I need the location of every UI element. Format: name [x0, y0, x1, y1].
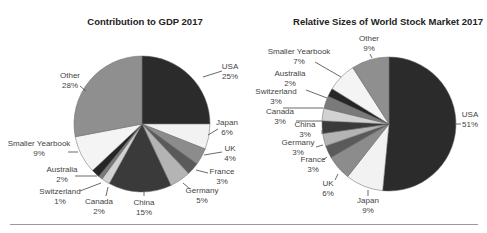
- leader-line: [106, 187, 108, 196]
- pie-slice-other: [74, 56, 142, 137]
- slice-label: UK4%: [224, 144, 236, 163]
- slice-label: Canada3%: [266, 107, 295, 126]
- slice-label: France3%: [301, 155, 326, 174]
- slice-label: Japan9%: [357, 196, 379, 215]
- leader-line: [306, 90, 327, 98]
- slice-label: Canada2%: [85, 197, 114, 216]
- leader-line: [315, 62, 341, 77]
- slice-label: Smaller Yearbook9%: [8, 139, 72, 158]
- gdp-pie-chart: USA25%Japan6%UK4%France3%Germany5%China1…: [8, 56, 239, 217]
- bottom-divider: [10, 224, 478, 225]
- leader-line: [335, 174, 338, 180]
- leader-line: [80, 183, 101, 191]
- slice-label: USA25%: [222, 62, 239, 81]
- slice-label: USA51%: [462, 110, 479, 129]
- pie-slice-usa: [142, 56, 210, 124]
- slice-label: Australia2%: [274, 69, 306, 88]
- slice-label: Other9%: [359, 34, 379, 53]
- slice-label: China3%: [295, 120, 316, 139]
- leader-line: [203, 71, 222, 77]
- slice-label: Japan6%: [216, 118, 238, 137]
- leader-line: [204, 152, 222, 155]
- leader-line: [370, 54, 372, 58]
- slice-label: China15%: [134, 198, 155, 217]
- slice-label: Australia2%: [46, 165, 78, 184]
- slice-label: Switzerland1%: [39, 187, 80, 206]
- slice-label: France3%: [210, 167, 235, 186]
- leader-line: [316, 145, 323, 147]
- pie-slice-usa: [383, 57, 456, 191]
- slice-label: Switzerland3%: [255, 87, 296, 106]
- stock-market-pie-chart: USA51%Japan9%UK6%France3%Germany3%China3…: [255, 34, 479, 215]
- leader-line: [196, 170, 208, 173]
- slice-label: Germany5%: [186, 186, 219, 205]
- slice-label: Smaller Yearbook7%: [268, 47, 332, 66]
- pie-charts-canvas: USA25%Japan6%UK4%France3%Germany5%China1…: [0, 0, 487, 233]
- slice-label: UK6%: [322, 179, 334, 198]
- slice-label: Other28%: [60, 71, 80, 90]
